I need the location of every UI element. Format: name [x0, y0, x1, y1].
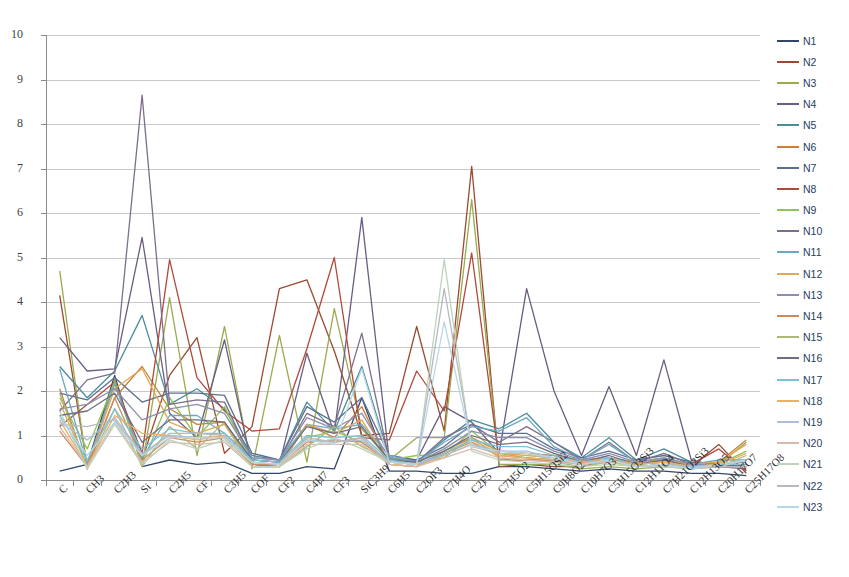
legend-item-label: N21 [803, 458, 822, 470]
legend-item[interactable]: N5 [777, 115, 847, 136]
legend-item[interactable]: N4 [777, 94, 847, 115]
legend-color-swatch [777, 506, 799, 508]
legend-item[interactable]: N1 [777, 30, 847, 51]
x-axis-tick-mark [678, 481, 679, 486]
chart-screenshot: 012345678910CCH3C2H3SiC2H5CFC3H5COFCF2C4… [0, 0, 849, 577]
legend-color-swatch [777, 251, 799, 253]
y-axis-tick-mark [41, 391, 46, 392]
legend-item[interactable]: N13 [777, 284, 847, 305]
legend-item-label: N12 [803, 268, 822, 280]
legend-item-label: N14 [803, 310, 822, 322]
x-axis-tick-mark [540, 481, 541, 486]
y-axis-tick-label: 1 [0, 429, 23, 441]
legend-item-label: N19 [803, 416, 822, 428]
legend-color-swatch [777, 294, 799, 296]
y-axis-tick-label: 5 [0, 251, 23, 263]
legend-item-label: N3 [803, 77, 816, 89]
legend-color-swatch [777, 463, 799, 465]
legend-color-swatch [777, 379, 799, 381]
legend-color-swatch [777, 336, 799, 338]
chart-legend: N1N2N3N4N5N6N7N8N9N10N11N12N13N14N15N16N… [777, 30, 847, 517]
legend-color-swatch [777, 61, 799, 63]
x-axis-tick-mark [485, 481, 486, 486]
legend-color-swatch [777, 485, 799, 487]
legend-item[interactable]: N17 [777, 369, 847, 390]
legend-item[interactable]: N14 [777, 305, 847, 326]
legend-item-label: N2 [803, 56, 816, 68]
legend-item-label: N8 [803, 183, 816, 195]
x-axis-tick-mark [73, 481, 74, 486]
series-line [60, 200, 747, 469]
legend-item-label: N18 [803, 395, 822, 407]
legend-item-label: N1 [803, 35, 816, 47]
legend-color-swatch [777, 188, 799, 190]
legend-item[interactable]: N12 [777, 263, 847, 284]
legend-item[interactable]: N15 [777, 327, 847, 348]
x-axis-tick-mark [128, 481, 129, 486]
x-axis-tick-mark [211, 481, 212, 486]
y-axis-tick-label: 2 [0, 384, 23, 396]
legend-item-label: N6 [803, 141, 816, 153]
legend-color-swatch [777, 124, 799, 126]
legend-item[interactable]: N11 [777, 242, 847, 263]
legend-item-label: N16 [803, 352, 822, 364]
legend-color-swatch [777, 400, 799, 402]
x-axis-tick-mark [623, 481, 624, 486]
y-axis-tick-label: 4 [0, 295, 23, 307]
legend-item[interactable]: N8 [777, 178, 847, 199]
legend-item-label: N5 [803, 119, 816, 131]
x-axis-tick-mark [760, 481, 761, 486]
x-axis-tick-mark [403, 481, 404, 486]
x-axis-tick-mark [513, 481, 514, 486]
legend-color-swatch [777, 146, 799, 148]
legend-item[interactable]: N20 [777, 433, 847, 454]
legend-item[interactable]: N6 [777, 136, 847, 157]
x-axis-tick-mark [101, 481, 102, 486]
y-axis-tick-label: 7 [0, 162, 23, 174]
legend-color-swatch [777, 209, 799, 211]
y-axis-tick-mark [41, 35, 46, 36]
legend-item[interactable]: N22 [777, 475, 847, 496]
x-axis-tick-mark [595, 481, 596, 486]
legend-item-label: N7 [803, 162, 816, 174]
legend-color-swatch [777, 442, 799, 444]
x-axis-tick-mark [458, 481, 459, 486]
legend-item[interactable]: N16 [777, 348, 847, 369]
y-axis-tick-mark [41, 80, 46, 81]
legend-item-label: N11 [803, 246, 821, 258]
x-axis-tick-mark [705, 481, 706, 486]
legend-item[interactable]: N23 [777, 496, 847, 517]
y-axis-tick-mark [41, 124, 46, 125]
x-axis-tick-mark [348, 481, 349, 486]
legend-item[interactable]: N9 [777, 200, 847, 221]
legend-item-label: N15 [803, 331, 822, 343]
legend-item[interactable]: N7 [777, 157, 847, 178]
legend-item-label: N10 [803, 225, 822, 237]
legend-item-label: N9 [803, 204, 816, 216]
y-axis-tick-label: 3 [0, 340, 23, 352]
x-axis-tick-mark [46, 481, 47, 486]
legend-item[interactable]: N10 [777, 221, 847, 242]
legend-item[interactable]: N18 [777, 390, 847, 411]
legend-item-label: N20 [803, 437, 822, 449]
y-axis-tick-label: 0 [0, 473, 23, 485]
legend-item[interactable]: N19 [777, 411, 847, 432]
legend-item[interactable]: N21 [777, 454, 847, 475]
y-axis-tick-label: 8 [0, 117, 23, 129]
legend-item-label: N23 [803, 501, 822, 513]
legend-item-label: N22 [803, 480, 822, 492]
x-axis-tick-mark [733, 481, 734, 486]
x-axis-tick-mark [156, 481, 157, 486]
y-axis-tick-mark [41, 347, 46, 348]
y-axis-tick-mark [41, 169, 46, 170]
x-axis-tick-mark [266, 481, 267, 486]
x-axis-tick-mark [650, 481, 651, 486]
legend-color-swatch [777, 40, 799, 42]
x-axis-tick-mark [376, 481, 377, 486]
y-axis-tick-label: 10 [0, 28, 23, 40]
legend-item[interactable]: N3 [777, 72, 847, 93]
y-axis-tick-mark [41, 213, 46, 214]
legend-item[interactable]: N2 [777, 51, 847, 72]
legend-item-label: N17 [803, 374, 822, 386]
legend-color-swatch [777, 273, 799, 275]
